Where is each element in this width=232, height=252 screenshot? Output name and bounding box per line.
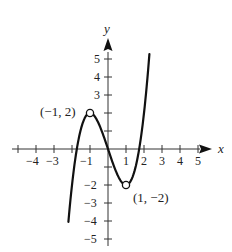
y-tick-label: 4: [94, 71, 100, 83]
local-max-marker: [86, 109, 93, 116]
x-tick-label: 1: [123, 155, 129, 167]
x-axis-label: x: [218, 142, 224, 155]
x-tick-label: 4: [177, 155, 183, 167]
local-min-marker: [122, 181, 129, 188]
cubic-function-graph: [0, 0, 232, 252]
y-tick-label: 5: [94, 53, 100, 65]
x-tick-label: −1: [80, 155, 93, 167]
x-tick-label: 2: [141, 155, 147, 167]
local-min-label: (1, −2): [133, 191, 169, 204]
y-tick-label: −5: [84, 233, 97, 245]
x-tick-label: −3: [46, 155, 59, 167]
y-tick-label: 3: [94, 89, 100, 101]
y-axis-label: y: [104, 22, 110, 35]
y-tick-label: −2: [84, 179, 97, 191]
y-axis-arrow-icon: [104, 38, 113, 51]
x-tick-label: 5: [195, 155, 201, 167]
local-max-label: (−1, 2): [40, 105, 76, 118]
y-tick-label: −3: [84, 197, 97, 209]
x-tick-label: 3: [159, 155, 165, 167]
x-axis-arrow-icon: [199, 145, 212, 154]
y-tick-label: −4: [84, 215, 97, 227]
x-tick-label: −4: [26, 155, 39, 167]
